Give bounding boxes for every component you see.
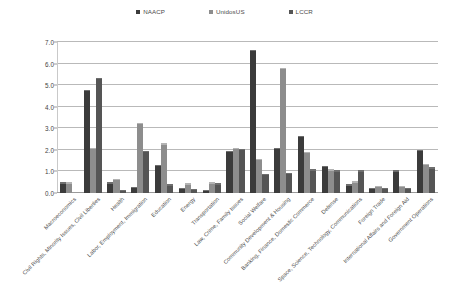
legend-label-lccr: LCCR bbox=[296, 8, 313, 15]
bar-group bbox=[390, 42, 414, 193]
bar-top-edge bbox=[137, 123, 143, 124]
bar-lccr[interactable] bbox=[286, 174, 292, 193]
bar-top-edge bbox=[167, 184, 173, 185]
bar-group bbox=[248, 42, 272, 193]
y-tick-mark bbox=[54, 106, 57, 107]
bar-top-edge bbox=[322, 166, 328, 167]
bar-lccr[interactable] bbox=[429, 168, 435, 193]
chart-legend: NAACP UnidosUS LCCR bbox=[0, 8, 449, 15]
bar-lccr[interactable] bbox=[334, 171, 340, 193]
y-tick-label: 7.0 bbox=[14, 39, 54, 46]
x-axis-labels: MacroeconomicsCivil Rights, Minority Iss… bbox=[57, 193, 438, 306]
bar-group bbox=[295, 42, 319, 193]
y-tick-label: 6.0 bbox=[14, 60, 54, 67]
bar-group bbox=[152, 42, 176, 193]
bar-group bbox=[343, 42, 367, 193]
bar-group bbox=[105, 42, 129, 193]
bar-lccr[interactable] bbox=[167, 185, 173, 193]
bar-top-edge bbox=[405, 188, 411, 189]
bar-top-edge bbox=[215, 183, 221, 184]
x-tick-label: Energy bbox=[179, 196, 196, 213]
bar-top-edge bbox=[382, 188, 388, 189]
bar-top-edge bbox=[298, 136, 304, 137]
y-tick-mark bbox=[54, 85, 57, 86]
bar-group bbox=[176, 42, 200, 193]
bar-top-edge bbox=[375, 186, 381, 187]
bar-top-edge bbox=[423, 164, 429, 165]
bar-top-edge bbox=[96, 78, 102, 79]
bar-top-edge bbox=[393, 170, 399, 171]
legend-swatch-unidosus bbox=[209, 10, 213, 14]
bar-top-edge bbox=[286, 173, 292, 174]
bar-top-edge bbox=[185, 183, 191, 184]
bar-top-edge bbox=[310, 169, 316, 170]
bar-group bbox=[367, 42, 391, 193]
bar-top-edge bbox=[113, 179, 119, 180]
bar-top-edge bbox=[143, 151, 149, 152]
bar-lccr[interactable] bbox=[239, 150, 245, 193]
bar-group bbox=[224, 42, 248, 193]
legend-swatch-lccr bbox=[289, 10, 293, 14]
bar-lccr[interactable] bbox=[96, 79, 102, 193]
legend-entry-unidosus: UnidosUS bbox=[209, 8, 245, 15]
legend-entry-naacp: NAACP bbox=[136, 8, 165, 15]
x-tick-label: Government Operations bbox=[387, 196, 434, 243]
x-tick-label: Health bbox=[109, 196, 125, 212]
bar-group bbox=[200, 42, 224, 193]
y-tick-mark bbox=[54, 128, 57, 129]
bar-lccr[interactable] bbox=[310, 170, 316, 193]
bar-top-edge bbox=[262, 174, 268, 175]
bar-lccr[interactable] bbox=[143, 152, 149, 193]
y-tick-label: 2.0 bbox=[14, 146, 54, 153]
bar-top-edge bbox=[399, 186, 405, 187]
bar-top-edge bbox=[429, 167, 435, 168]
bar-group bbox=[57, 42, 81, 193]
bar-top-edge bbox=[84, 90, 90, 91]
y-tick-mark bbox=[54, 42, 57, 43]
bar-lccr[interactable] bbox=[262, 175, 268, 193]
x-tick-label: Defense bbox=[320, 196, 339, 215]
legend-entry-lccr: LCCR bbox=[289, 8, 313, 15]
bar-top-edge bbox=[239, 149, 245, 150]
plot-area bbox=[57, 42, 438, 193]
y-tick-label: 4.0 bbox=[14, 103, 54, 110]
legend-label-naacp: NAACP bbox=[143, 8, 165, 15]
y-tick-label: 0.0 bbox=[14, 190, 54, 197]
legend-swatch-naacp bbox=[136, 10, 140, 14]
legend-label-unidosus: UnidosUS bbox=[216, 8, 245, 15]
bar-top-edge bbox=[417, 150, 423, 151]
bar-lccr[interactable] bbox=[358, 171, 364, 193]
bar-top-edge bbox=[191, 189, 197, 190]
bar-group bbox=[414, 42, 438, 193]
y-tick-label: 1.0 bbox=[14, 168, 54, 175]
bar-group bbox=[81, 42, 105, 193]
y-tick-label: 3.0 bbox=[14, 125, 54, 132]
bar-unidosus[interactable] bbox=[66, 183, 72, 193]
bar-top-edge bbox=[250, 50, 256, 51]
y-tick-mark bbox=[54, 171, 57, 172]
bar-group bbox=[319, 42, 343, 193]
bar-top-edge bbox=[120, 190, 126, 191]
bar-top-edge bbox=[358, 170, 364, 171]
bar-top-edge bbox=[334, 170, 340, 171]
bar-group bbox=[128, 42, 152, 193]
bar-groups bbox=[57, 42, 438, 193]
x-tick-label: Education bbox=[150, 196, 172, 218]
bar-top-edge bbox=[304, 152, 310, 153]
bar-top-edge bbox=[256, 159, 262, 160]
y-tick-mark bbox=[54, 149, 57, 150]
x-tick-label: Space, Science, Technology, Communicatio… bbox=[276, 196, 363, 283]
bar-lccr[interactable] bbox=[215, 184, 221, 193]
y-tick-mark bbox=[54, 63, 57, 64]
y-tick-label: 5.0 bbox=[14, 82, 54, 89]
bar-top-edge bbox=[161, 143, 167, 144]
bar-top-edge bbox=[280, 68, 286, 69]
bar-group bbox=[271, 42, 295, 193]
bar-chart: NAACP UnidosUS LCCR 0.01.02.03.04.05.06.… bbox=[0, 0, 449, 306]
bar-top-edge bbox=[66, 182, 72, 183]
